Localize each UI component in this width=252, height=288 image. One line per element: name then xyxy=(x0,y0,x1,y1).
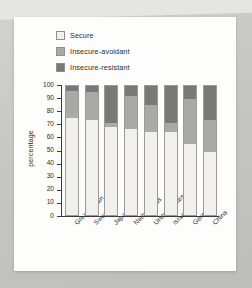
bar-segment[interactable] xyxy=(165,123,177,132)
y-axis-tick-label: 80 xyxy=(47,107,54,114)
bar-segment[interactable] xyxy=(184,144,196,215)
bar-segment[interactable] xyxy=(204,120,216,152)
stacked-bar[interactable] xyxy=(183,85,197,216)
y-axis-tick-label: 60 xyxy=(47,133,54,140)
y-axis-tick: 20 xyxy=(57,190,61,191)
y-axis-line xyxy=(61,85,62,217)
y-axis-tick-label: 30 xyxy=(47,172,54,179)
y-axis-tick: 40 xyxy=(57,164,61,165)
bar-segment[interactable] xyxy=(145,86,157,105)
stacked-bar[interactable] xyxy=(164,85,178,216)
bar-segment[interactable] xyxy=(145,132,157,215)
bar-segment[interactable] xyxy=(125,129,137,215)
bar-segment[interactable] xyxy=(66,91,78,118)
stacked-bar[interactable] xyxy=(85,85,99,216)
figure-card: SecureInsecure-avoidantInsecure-resistan… xyxy=(14,17,236,271)
y-axis-tick: 0 xyxy=(57,216,61,217)
y-axis-tick: 10 xyxy=(57,203,61,204)
bar-segment[interactable] xyxy=(165,86,177,123)
y-axis-tick: 50 xyxy=(57,151,61,152)
stacked-bar[interactable] xyxy=(144,85,158,216)
screenshot-page: SecureInsecure-avoidantInsecure-resistan… xyxy=(0,0,252,288)
stacked-bar[interactable] xyxy=(124,85,138,216)
bar-segment[interactable] xyxy=(184,99,196,144)
y-axis-tick: 30 xyxy=(57,177,61,178)
y-axis-tick: 100 xyxy=(57,85,61,86)
bar-segment[interactable] xyxy=(105,86,117,123)
stacked-bar[interactable] xyxy=(104,85,118,216)
bar-segment[interactable] xyxy=(86,92,98,119)
y-axis-tick-label: 10 xyxy=(47,198,54,205)
y-axis-tick: 60 xyxy=(57,137,61,138)
bar-segment[interactable] xyxy=(66,118,78,215)
bar-segment[interactable] xyxy=(165,132,177,215)
stacked-bar-chart: SecureInsecure-avoidantInsecure-resistan… xyxy=(14,17,236,271)
stacked-bar[interactable] xyxy=(65,85,79,216)
bar-segment[interactable] xyxy=(204,86,216,120)
y-axis-tick: 80 xyxy=(57,111,61,112)
stacked-bar[interactable] xyxy=(203,85,217,216)
y-axis-tick-label: 50 xyxy=(47,146,54,153)
y-axis-tick: 90 xyxy=(57,98,61,99)
y-axis-tick-label: 40 xyxy=(47,159,54,166)
bar-segment[interactable] xyxy=(204,152,216,215)
bar-segment[interactable] xyxy=(125,96,137,128)
y-axis-tick-label: 100 xyxy=(43,81,54,88)
bar-segment[interactable] xyxy=(184,86,196,99)
bar-segment[interactable] xyxy=(145,105,157,132)
bar-segment[interactable] xyxy=(125,86,137,96)
y-axis-tick-label: 70 xyxy=(47,120,54,127)
y-axis-tick: 70 xyxy=(57,124,61,125)
bar-segment[interactable] xyxy=(86,120,98,215)
y-axis-tick-label: 20 xyxy=(47,185,54,192)
y-axis-tick-label: 90 xyxy=(47,94,54,101)
plot-wrapper: percentage 1009080706050403020100Great B… xyxy=(14,17,236,271)
y-axis-title: percentage xyxy=(27,114,34,184)
y-axis-tick-label: 0 xyxy=(50,212,54,219)
plot-area: 1009080706050403020100Great BritainSwede… xyxy=(61,85,219,217)
bar-segment[interactable] xyxy=(105,127,117,215)
